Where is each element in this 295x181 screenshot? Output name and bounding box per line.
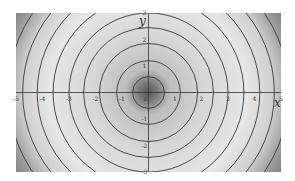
plot-area: -5-4-3-2-1012345-3-2-1123 x y <box>0 0 295 181</box>
x-tick-label: 3 <box>226 95 230 102</box>
y-tick-label: 2 <box>143 36 147 43</box>
x-tick-label: -4 <box>40 95 46 102</box>
x-tick-label: -1 <box>119 95 125 102</box>
x-tick-label: 1 <box>173 95 177 102</box>
x-tick-label: 2 <box>200 95 204 102</box>
x-tick-label: 0 <box>144 95 148 102</box>
y-tick-label: -1 <box>142 115 148 122</box>
y-tick-label: 1 <box>143 62 147 69</box>
x-tick-label: -2 <box>93 95 99 102</box>
y-tick-label: -2 <box>142 142 148 149</box>
x-axis-label: x <box>274 96 281 110</box>
x-tick-label: 4 <box>253 95 257 102</box>
x-tick-label: -3 <box>66 95 72 102</box>
x-tick-label: -5 <box>13 95 19 102</box>
y-tick-label: -3 <box>142 168 148 175</box>
y-axis-label: y <box>138 14 146 28</box>
contour-plot: -5-4-3-2-1012345-3-2-1123 x y <box>0 0 295 181</box>
